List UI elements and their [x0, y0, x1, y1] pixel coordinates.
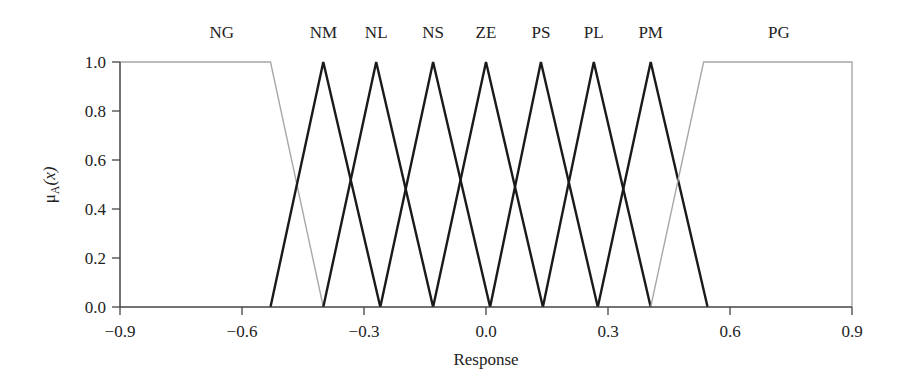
axes: 0.00.20.40.60.81.0 −0.9−0.6−0.30.00.30.6…	[85, 53, 863, 341]
membership-curves	[120, 62, 852, 307]
y-axis-ticks: 0.00.20.40.60.81.0	[85, 53, 120, 317]
set-label-nm: NM	[310, 23, 337, 42]
membership-nl	[323, 62, 433, 307]
membership-ng	[120, 62, 323, 307]
x-tick-label: −0.6	[227, 322, 258, 341]
membership-ns	[380, 62, 490, 307]
membership-function-chart: 0.00.20.40.60.81.0 −0.9−0.6−0.30.00.30.6…	[0, 0, 900, 387]
membership-ze	[433, 62, 543, 307]
x-tick-label: 0.9	[841, 322, 862, 341]
x-tick-label: 0.3	[597, 322, 618, 341]
membership-nm	[271, 62, 381, 307]
x-tick-label: 0.6	[719, 322, 740, 341]
y-axis-label-mu: μ	[40, 194, 59, 203]
y-tick-label: 0.2	[85, 249, 106, 268]
membership-ps	[490, 62, 598, 307]
y-tick-label: 0.4	[85, 200, 107, 219]
y-axis-label-subscript: A	[48, 185, 62, 194]
y-axis-label: μA(x)	[40, 166, 62, 203]
y-tick-label: 0.6	[85, 151, 106, 170]
set-label-pl: PL	[584, 23, 604, 42]
fuzzy-set-labels: NGNMNLNSZEPSPLPMPG	[209, 23, 789, 42]
set-label-ze: ZE	[476, 23, 497, 42]
membership-pg	[651, 62, 852, 307]
membership-pl	[543, 62, 651, 307]
y-tick-label: 1.0	[85, 53, 106, 72]
set-label-ns: NS	[422, 23, 444, 42]
x-tick-label: −0.3	[349, 322, 380, 341]
svg-text:μA(x): μA(x)	[40, 166, 62, 203]
chart-svg: 0.00.20.40.60.81.0 −0.9−0.6−0.30.00.30.6…	[0, 0, 900, 387]
x-tick-label: −0.9	[105, 322, 136, 341]
x-tick-label: 0.0	[475, 322, 496, 341]
x-axis-label: Response	[453, 350, 518, 369]
y-tick-label: 0.0	[85, 298, 106, 317]
y-axis-label-arg: (x)	[40, 166, 59, 185]
y-tick-label: 0.8	[85, 102, 106, 121]
set-label-pg: PG	[768, 23, 790, 42]
x-axis-ticks: −0.9−0.6−0.30.00.30.60.9	[105, 307, 863, 341]
set-label-pm: PM	[638, 23, 663, 42]
set-label-ps: PS	[531, 23, 550, 42]
set-label-ng: NG	[209, 23, 234, 42]
set-label-nl: NL	[365, 23, 388, 42]
membership-pm	[598, 62, 708, 307]
